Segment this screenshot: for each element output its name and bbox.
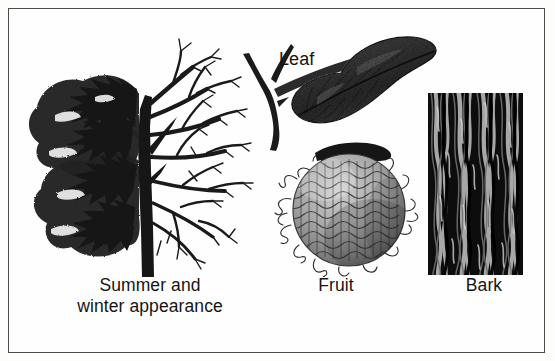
label-tree-line-2: winter appearance — [45, 296, 255, 317]
bark-texture — [428, 93, 523, 275]
plate-frame: Leaf Fruit Bark Summer and winter appear… — [8, 8, 545, 353]
tree-summer-foliage — [29, 75, 140, 257]
label-fruit: Fruit — [291, 275, 381, 296]
label-bark: Bark — [439, 275, 529, 296]
figure-bark — [428, 93, 523, 275]
fruit-illustration — [267, 127, 432, 277]
label-leaf: Leaf — [279, 49, 339, 70]
bark-swatch — [428, 93, 523, 275]
fruit-body — [287, 154, 421, 275]
label-tree: Summer and winter appearance — [45, 275, 255, 317]
figure-tree — [21, 31, 266, 279]
figure-fruit — [267, 127, 432, 277]
tree-illustration — [21, 31, 266, 279]
label-tree-line-1: Summer and — [45, 275, 255, 296]
